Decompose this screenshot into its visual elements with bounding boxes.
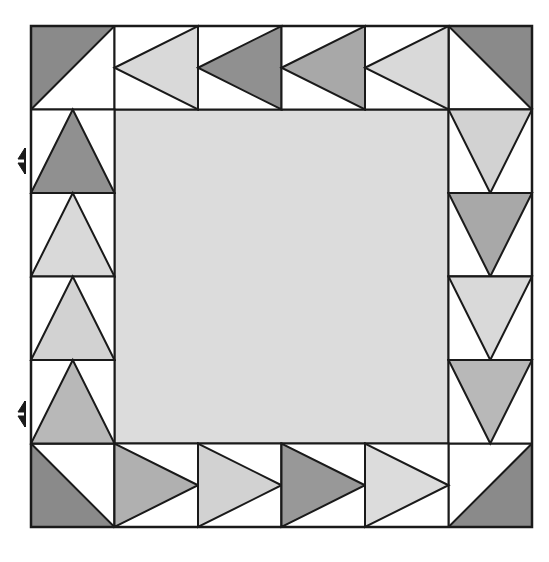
quilt-block-group bbox=[31, 26, 532, 527]
quilt-block-diagram bbox=[0, 0, 549, 562]
quilt-block-figure bbox=[0, 0, 549, 562]
center-square bbox=[115, 110, 449, 444]
